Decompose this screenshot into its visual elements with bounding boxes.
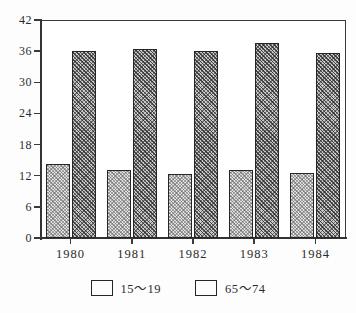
x-axis-tick-label: 1982 — [163, 248, 223, 261]
y-axis-tick-label: 6 — [2, 201, 32, 213]
y-axis-tick-label: 18 — [2, 139, 32, 151]
y-axis-tick-label: 30 — [2, 76, 32, 88]
x-axis-tick-label: 1981 — [102, 248, 162, 261]
light-hatch-swatch — [91, 280, 113, 296]
bar-1981-series1 — [107, 170, 131, 238]
bar-group — [40, 20, 101, 238]
x-axis-tick-label: 1980 — [41, 248, 101, 261]
x-axis-tick-label: 1983 — [224, 248, 284, 261]
y-axis-tick-label: 12 — [2, 170, 32, 182]
chart-legend: 15〜1965〜74 — [0, 278, 356, 297]
bar-1982-series1 — [168, 174, 192, 238]
y-axis-tick-label: 36 — [2, 45, 32, 57]
legend-item: 65〜74 — [195, 278, 266, 297]
bar-group — [101, 20, 162, 238]
bar-group — [224, 20, 285, 238]
bar-chart: 06121824303642 19801981198219831984 15〜1… — [0, 0, 356, 313]
legend-label: 65〜74 — [225, 278, 266, 297]
x-axis-tick — [253, 238, 255, 244]
bar-1983-series2 — [255, 43, 279, 238]
bar-group — [285, 20, 346, 238]
y-axis-tick-label: 24 — [2, 107, 32, 119]
bar-1983-series1 — [229, 170, 253, 238]
x-axis-tick — [70, 238, 72, 244]
legend-item: 15〜19 — [91, 278, 162, 297]
x-axis-tick — [192, 238, 194, 244]
bars-layer — [40, 20, 346, 238]
y-axis-tick-label: 42 — [2, 14, 32, 26]
y-axis-tick-label: 0 — [2, 232, 32, 244]
x-axis-tick — [131, 238, 133, 244]
legend-label: 15〜19 — [121, 278, 162, 297]
dark-hatch-swatch — [195, 280, 217, 296]
x-axis-tick-label: 1984 — [285, 248, 345, 261]
bar-group — [162, 20, 223, 238]
bar-1984-series2 — [316, 53, 340, 238]
bar-1982-series2 — [194, 51, 218, 238]
bar-1980-series1 — [46, 164, 70, 238]
bar-1981-series2 — [133, 49, 157, 238]
bar-1984-series1 — [290, 173, 314, 238]
bar-1980-series2 — [72, 51, 96, 238]
x-axis-tick — [315, 238, 317, 244]
